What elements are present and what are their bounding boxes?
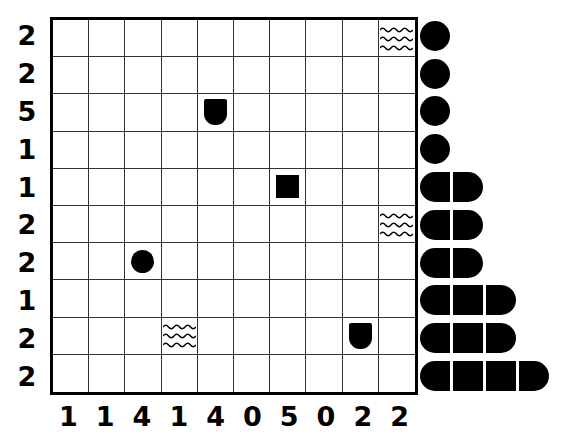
grid-cell-r7-c6[interactable] [270,280,306,317]
grid-cell-r8-c2[interactable] [125,318,161,355]
grid-cell-r4-c3[interactable] [162,169,198,206]
grid-cell-r0-c4[interactable] [198,20,234,57]
grid-cell-r1-c2[interactable] [125,57,161,94]
grid-cell-r6-c1[interactable] [89,243,125,280]
grid-cell-r0-c7[interactable] [306,20,342,57]
grid-cell-r4-c6[interactable] [270,169,306,206]
grid-cell-r2-c0[interactable] [53,94,89,131]
grid-cell-r4-c9[interactable] [379,169,415,206]
grid-cell-r1-c6[interactable] [270,57,306,94]
grid-cell-r3-c4[interactable] [198,132,234,169]
grid-cell-r0-c3[interactable] [162,20,198,57]
grid-cell-r2-c7[interactable] [306,94,342,131]
grid-cell-r7-c3[interactable] [162,280,198,317]
grid-cell-r6-c3[interactable] [162,243,198,280]
grid-cell-r8-c7[interactable] [306,318,342,355]
grid-cell-r2-c5[interactable] [234,94,270,131]
grid-cell-r8-c5[interactable] [234,318,270,355]
grid-cell-r5-c9[interactable] [379,206,415,243]
grid-cell-r2-c4[interactable] [198,94,234,131]
grid-cell-r9-c4[interactable] [198,355,234,392]
grid-cell-r6-c8[interactable] [343,243,379,280]
grid-cell-r5-c5[interactable] [234,206,270,243]
grid-cell-r0-c9[interactable] [379,20,415,57]
grid-cell-r2-c2[interactable] [125,94,161,131]
grid-cell-r5-c0[interactable] [53,206,89,243]
grid-cell-r1-c4[interactable] [198,57,234,94]
grid-cell-r1-c9[interactable] [379,57,415,94]
grid-cell-r7-c4[interactable] [198,280,234,317]
grid-cell-r5-c1[interactable] [89,206,125,243]
grid-cell-r0-c5[interactable] [234,20,270,57]
grid-cell-r3-c2[interactable] [125,132,161,169]
grid-cell-r4-c8[interactable] [343,169,379,206]
grid-cell-r8-c3[interactable] [162,318,198,355]
grid-cell-r9-c5[interactable] [234,355,270,392]
grid-cell-r5-c3[interactable] [162,206,198,243]
grid-cell-r8-c9[interactable] [379,318,415,355]
grid-cell-r4-c0[interactable] [53,169,89,206]
grid-cell-r6-c0[interactable] [53,243,89,280]
grid-cell-r9-c2[interactable] [125,355,161,392]
grid-cell-r3-c8[interactable] [343,132,379,169]
grid-cell-r9-c0[interactable] [53,355,89,392]
grid-cell-r9-c1[interactable] [89,355,125,392]
grid-cell-r2-c9[interactable] [379,94,415,131]
grid-cell-r2-c8[interactable] [343,94,379,131]
grid-cell-r8-c1[interactable] [89,318,125,355]
grid-cell-r4-c1[interactable] [89,169,125,206]
grid-cell-r2-c1[interactable] [89,94,125,131]
grid-cell-r3-c0[interactable] [53,132,89,169]
grid-cell-r7-c7[interactable] [306,280,342,317]
grid-cell-r6-c5[interactable] [234,243,270,280]
grid-cell-r4-c2[interactable] [125,169,161,206]
grid-cell-r7-c0[interactable] [53,280,89,317]
grid-cell-r2-c3[interactable] [162,94,198,131]
grid-cell-r6-c6[interactable] [270,243,306,280]
grid-cell-r4-c4[interactable] [198,169,234,206]
grid-cell-r7-c2[interactable] [125,280,161,317]
grid-cell-r8-c8[interactable] [343,318,379,355]
grid-cell-r3-c1[interactable] [89,132,125,169]
grid-cell-r3-c7[interactable] [306,132,342,169]
grid-cell-r6-c9[interactable] [379,243,415,280]
grid-cell-r9-c6[interactable] [270,355,306,392]
grid-cell-r3-c9[interactable] [379,132,415,169]
grid-cell-r0-c6[interactable] [270,20,306,57]
grid-cell-r1-c0[interactable] [53,57,89,94]
grid-cell-r6-c2[interactable] [125,243,161,280]
grid-cell-r7-c1[interactable] [89,280,125,317]
grid-cell-r7-c8[interactable] [343,280,379,317]
grid-cell-r3-c5[interactable] [234,132,270,169]
grid-cell-r0-c1[interactable] [89,20,125,57]
grid-cell-r9-c7[interactable] [306,355,342,392]
grid-cell-r8-c4[interactable] [198,318,234,355]
grid-cell-r5-c6[interactable] [270,206,306,243]
grid-cell-r6-c4[interactable] [198,243,234,280]
grid-cell-r2-c6[interactable] [270,94,306,131]
grid-cell-r0-c8[interactable] [343,20,379,57]
grid-cell-r4-c7[interactable] [306,169,342,206]
grid-cell-r1-c3[interactable] [162,57,198,94]
grid-cell-r6-c7[interactable] [306,243,342,280]
grid-cell-r0-c2[interactable] [125,20,161,57]
grid-cell-r7-c5[interactable] [234,280,270,317]
grid-cell-r0-c0[interactable] [53,20,89,57]
grid-cell-r8-c6[interactable] [270,318,306,355]
grid-cell-r5-c4[interactable] [198,206,234,243]
grid-cell-r1-c5[interactable] [234,57,270,94]
grid-cell-r9-c8[interactable] [343,355,379,392]
grid-cell-r8-c0[interactable] [53,318,89,355]
grid-cell-r3-c6[interactable] [270,132,306,169]
grid-cell-r4-c5[interactable] [234,169,270,206]
grid-cell-r3-c3[interactable] [162,132,198,169]
grid-cell-r1-c1[interactable] [89,57,125,94]
grid-cell-r5-c7[interactable] [306,206,342,243]
grid-cell-r7-c9[interactable] [379,280,415,317]
grid-cell-r9-c9[interactable] [379,355,415,392]
grid-cell-r1-c8[interactable] [343,57,379,94]
grid-cell-r9-c3[interactable] [162,355,198,392]
grid-cell-r1-c7[interactable] [306,57,342,94]
grid-cell-r5-c2[interactable] [125,206,161,243]
grid-cell-r5-c8[interactable] [343,206,379,243]
